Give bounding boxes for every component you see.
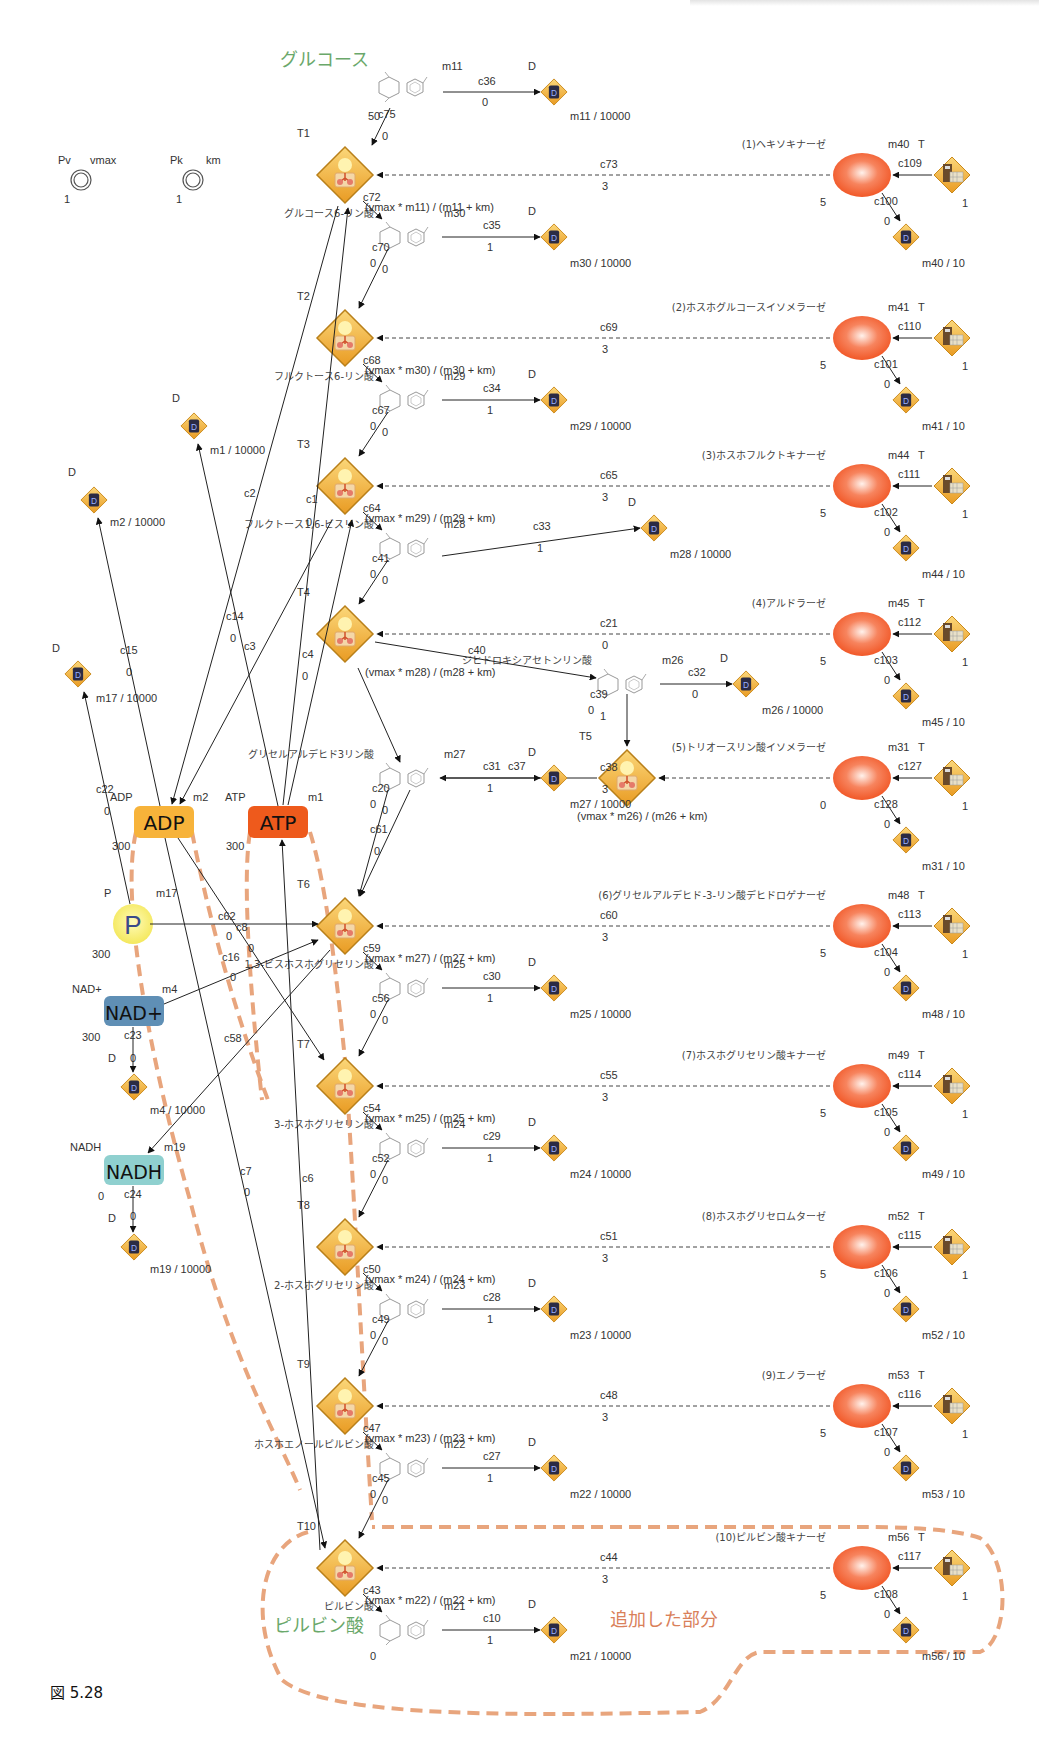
metabolite-place[interactable]: 2-ホスホグリセリン酸m23 bbox=[274, 1279, 465, 1324]
step-row: T9c483(9)エノラーゼm53T5c1161c1070m53 / 10ホスホ… bbox=[254, 1358, 970, 1538]
drain-icon[interactable] bbox=[893, 975, 919, 1001]
generator-icon[interactable] bbox=[934, 1388, 970, 1424]
edge-label: c54 bbox=[363, 1102, 381, 1114]
param-pk[interactable]: Pk km 1 bbox=[170, 154, 221, 205]
edge-weight: 1 bbox=[487, 992, 493, 1004]
drain-icon[interactable] bbox=[541, 1135, 567, 1161]
drain-icon[interactable] bbox=[81, 487, 107, 513]
generator-icon[interactable] bbox=[934, 468, 970, 504]
drain-icon[interactable] bbox=[893, 535, 919, 561]
edge-label: c44 bbox=[600, 1551, 618, 1563]
edge-label: c43 bbox=[363, 1584, 381, 1596]
drain-icon[interactable] bbox=[541, 79, 567, 105]
drain-icon[interactable] bbox=[121, 1074, 147, 1100]
enzyme-type: T bbox=[918, 1531, 925, 1543]
edge-label: c3 bbox=[244, 640, 256, 652]
drain-icon[interactable] bbox=[181, 413, 207, 439]
drain-icon[interactable] bbox=[65, 661, 91, 687]
cofactor-nadp[interactable]: NAD+ m4 NAD+ 300 c23 0 D m4 / 10000 bbox=[72, 983, 205, 1116]
edge-weight: 0 bbox=[370, 798, 376, 810]
drain-icon[interactable] bbox=[541, 224, 567, 250]
metabolite-place[interactable]: 3-ホスホグリセリン酸m24 bbox=[274, 1118, 465, 1163]
drain-icon[interactable] bbox=[541, 1617, 567, 1643]
drain-icon[interactable] bbox=[893, 683, 919, 709]
drain-icon[interactable] bbox=[541, 975, 567, 1001]
cofactor-name: P bbox=[124, 910, 141, 940]
glucose-label: グルコース bbox=[280, 49, 369, 70]
cofactor-value: 300 bbox=[112, 840, 130, 852]
edge-label: c2 bbox=[244, 487, 256, 499]
drain-icon[interactable] bbox=[641, 515, 667, 541]
transition-node[interactable]: T10 bbox=[297, 1520, 373, 1596]
metabolite-id: m26 bbox=[662, 654, 683, 666]
drain-expr: m21 / 10000 bbox=[570, 1650, 631, 1662]
generator-icon[interactable] bbox=[934, 1550, 970, 1586]
metabolite-place[interactable]: 1,3-ビスホスホグリセリン酸m25 bbox=[244, 958, 465, 1003]
generator-icon[interactable] bbox=[934, 320, 970, 356]
enzyme-type: T bbox=[918, 741, 925, 753]
drain-icon[interactable] bbox=[893, 1617, 919, 1643]
drain-icon[interactable] bbox=[121, 1234, 147, 1260]
edge-label: c6 bbox=[302, 1172, 314, 1184]
param-value: 1 bbox=[64, 193, 70, 205]
drain-expr: m27 / 10000 bbox=[570, 798, 631, 810]
edge-label: c10 bbox=[483, 1612, 501, 1624]
cofactor-atp[interactable]: ATP m1 ATP 300 bbox=[225, 791, 323, 852]
drain-icon[interactable] bbox=[541, 765, 567, 791]
transition-node[interactable]: T6 bbox=[297, 878, 373, 954]
cofactor-value: 300 bbox=[82, 1031, 100, 1043]
metabolite-place[interactable]: フルクトース6-リン酸m29 bbox=[274, 370, 465, 415]
generator-icon[interactable] bbox=[934, 908, 970, 944]
transition-node[interactable]: T1 bbox=[297, 127, 373, 203]
generator-icon[interactable] bbox=[934, 1229, 970, 1265]
drain-icon[interactable] bbox=[893, 827, 919, 853]
edge-weight: 1 bbox=[487, 1152, 493, 1164]
edge-weight: 0 bbox=[370, 420, 376, 432]
generator-icon[interactable] bbox=[934, 157, 970, 193]
param-pv[interactable]: Pv vmax 1 bbox=[58, 154, 117, 205]
edge-label: c60 bbox=[600, 909, 618, 921]
drain-icon[interactable] bbox=[893, 1135, 919, 1161]
drain-expr: m26 / 10000 bbox=[762, 704, 823, 716]
drain-icon[interactable] bbox=[541, 1455, 567, 1481]
enzyme-initial: 5 bbox=[820, 655, 826, 667]
glucose-place[interactable]: グルコース m11 50 c75 0 c36 0 D m11 / 10000 bbox=[280, 49, 630, 145]
drain-icon[interactable] bbox=[893, 224, 919, 250]
enzyme-type: T bbox=[918, 301, 925, 313]
enzyme-id: m56 bbox=[888, 1531, 909, 1543]
enzyme-node[interactable]: (9)エノラーゼm53T5 bbox=[762, 1369, 925, 1439]
drain-icon[interactable] bbox=[541, 1296, 567, 1322]
drain-icon[interactable] bbox=[733, 671, 759, 697]
rate-expr: (vmax * m22) / (m22 + km) bbox=[365, 1594, 496, 1606]
drain-expr: m49 / 10 bbox=[922, 1168, 965, 1180]
drain-icon[interactable] bbox=[893, 1455, 919, 1481]
generator-icon[interactable] bbox=[934, 760, 970, 796]
enzyme-name: (10)ピルビン酸キナーゼ bbox=[715, 1531, 826, 1543]
metabolite-place[interactable]: フルクトース1,6-ビスリン酸m28 bbox=[244, 518, 465, 563]
edge-label: c112 bbox=[898, 616, 921, 628]
cofactor-id: m17 bbox=[156, 887, 177, 899]
enzyme-node[interactable]: (4)アルドラーゼm45T5 bbox=[752, 597, 925, 667]
drain-icon[interactable] bbox=[893, 387, 919, 413]
drain-icon[interactable] bbox=[541, 387, 567, 413]
enzyme-type: T bbox=[918, 449, 925, 461]
transition-node[interactable]: T8 bbox=[297, 1199, 373, 1275]
generator-icon[interactable] bbox=[934, 1068, 970, 1104]
generator-icon[interactable] bbox=[934, 616, 970, 652]
edge-weight: 0 bbox=[588, 704, 594, 716]
drain-expr: m56 / 10 bbox=[922, 1650, 965, 1662]
cofactor-label: ATP bbox=[225, 791, 246, 803]
drain-label: D bbox=[628, 496, 636, 508]
cofactor-edges: c2 c1 0 c14 0 c3 c4 0 c62 0 c8 0 c16 0 c… bbox=[148, 206, 388, 1550]
edge-weight: 0 bbox=[306, 516, 312, 528]
enzyme-name: (4)アルドラーゼ bbox=[752, 598, 826, 609]
edge-label: c50 bbox=[363, 1263, 381, 1275]
metabolite-place[interactable]: グリセルアルデヒド3リン酸m27 bbox=[248, 748, 466, 793]
drain-icon[interactable] bbox=[893, 1296, 919, 1322]
transition-node[interactable]: T7 bbox=[297, 1038, 373, 1114]
generator-value: 1 bbox=[962, 656, 968, 668]
enzyme-ellipse bbox=[833, 904, 891, 948]
transition-id: T7 bbox=[297, 1038, 310, 1050]
drain-expr: m28 / 10000 bbox=[670, 548, 731, 560]
enzyme-name: (9)エノラーゼ bbox=[762, 1370, 826, 1381]
